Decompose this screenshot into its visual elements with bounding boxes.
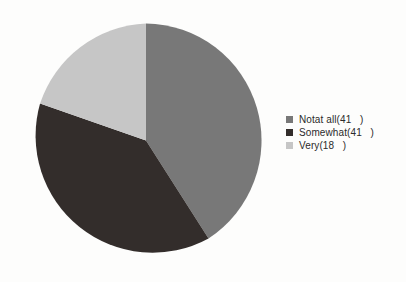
- legend-item-somewhat[interactable]: Somewhat(41 ): [286, 126, 398, 139]
- legend-item-notat-all[interactable]: Notat all(41 ): [286, 113, 398, 126]
- legend-label-notat-all: Notat all(41 ): [299, 113, 363, 126]
- chart-legend: Notat all(41 ) Somewhat(41 ) Very(18 ): [286, 113, 398, 152]
- legend-label-somewhat: Somewhat(41 ): [299, 126, 374, 139]
- legend-label-very: Very(18 ): [299, 139, 346, 152]
- legend-swatch-somewhat: [286, 129, 293, 136]
- pie-chart-svg: [29, 23, 263, 258]
- legend-item-very[interactable]: Very(18 ): [286, 139, 398, 152]
- pie-chart-figure: Notat all(41 ) Somewhat(41 ) Very(18 ): [0, 0, 406, 282]
- legend-swatch-very: [286, 142, 293, 149]
- pie-chart-plot-area: [29, 23, 263, 258]
- legend-swatch-notat-all: [286, 116, 293, 123]
